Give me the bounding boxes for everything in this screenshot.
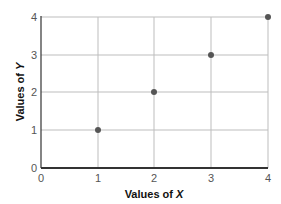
scatter-chart: 0 1 2 3 4 0 1 2 3 4 Values of X Values o… xyxy=(0,0,281,204)
x-axis-label: Values of X xyxy=(125,188,184,200)
data-point xyxy=(265,14,271,20)
x-tick-label: 3 xyxy=(208,172,214,184)
x-tick-label: 4 xyxy=(265,172,271,184)
y-tick-label: 0 xyxy=(31,162,37,174)
x-tick-label: 2 xyxy=(151,172,157,184)
y-axis-label: Values of Y xyxy=(14,61,26,121)
y-tick-labels: 0 1 2 3 4 xyxy=(31,11,37,174)
y-tick-label: 1 xyxy=(31,124,37,136)
y-tick-label: 3 xyxy=(31,49,37,61)
x-tick-label: 1 xyxy=(95,172,101,184)
data-point xyxy=(151,89,157,95)
y-tick-label: 4 xyxy=(31,11,37,23)
data-point xyxy=(95,127,101,133)
data-point xyxy=(208,52,214,58)
data-points xyxy=(95,14,271,133)
x-tick-labels: 0 1 2 3 4 xyxy=(38,172,271,184)
y-tick-label: 2 xyxy=(31,86,37,98)
x-tick-label: 0 xyxy=(38,172,44,184)
